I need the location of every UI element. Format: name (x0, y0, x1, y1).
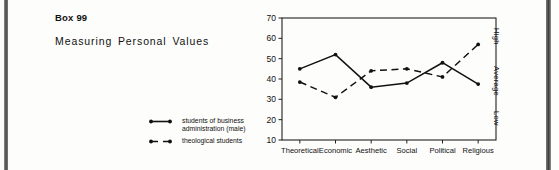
data-point (298, 80, 302, 84)
right-axis-label-low: Low (492, 111, 501, 126)
data-point (476, 82, 480, 86)
data-point (476, 43, 480, 47)
legend-dashed-line-icon (148, 137, 182, 146)
x-tick-label: Religious (463, 146, 494, 155)
page-canvas: Box 99 Measuring Personal Values student… (0, 0, 559, 170)
chart-svg: 10203040506070TheoreticalEconomicAesthet… (256, 14, 506, 164)
legend-solid-line-icon (148, 117, 182, 126)
y-tick-label: 10 (267, 135, 277, 145)
series-line-1 (300, 44, 478, 97)
plot-frame (282, 18, 496, 140)
y-tick-label: 60 (267, 33, 277, 43)
right-axis-label-high: High (492, 28, 501, 45)
x-tick-label: Political (429, 146, 455, 155)
data-point (334, 53, 338, 57)
page-title: Measuring Personal Values (55, 35, 209, 47)
scan-edge-left (4, 0, 8, 170)
data-point (369, 85, 373, 89)
x-tick-label: Aesthetic (356, 146, 387, 155)
data-point (441, 75, 445, 79)
legend-label-theological: theological students (182, 137, 242, 145)
data-point (405, 67, 409, 71)
y-tick-label: 20 (267, 115, 277, 125)
data-point (298, 67, 302, 71)
series-line-0 (300, 55, 478, 88)
y-tick-label: 50 (267, 54, 277, 64)
y-tick-label: 70 (267, 14, 277, 23)
caption-block: Box 99 Measuring Personal Values (55, 12, 209, 47)
legend-item-business: students of business administration (mal… (148, 117, 245, 133)
right-axis-label-average: Average (492, 66, 501, 96)
chart-legend: students of business administration (mal… (148, 117, 245, 150)
line-chart: 10203040506070TheoreticalEconomicAesthet… (256, 14, 506, 164)
data-point (405, 81, 409, 85)
y-tick-label: 40 (267, 74, 277, 84)
data-point (334, 95, 338, 99)
legend-item-theological: theological students (148, 137, 245, 146)
scan-edge-right (546, 0, 551, 170)
x-tick-label: Theoretical (281, 146, 319, 155)
x-tick-label: Social (396, 146, 417, 155)
y-tick-label: 30 (267, 94, 277, 104)
data-point (441, 61, 445, 65)
legend-label-business: students of business administration (mal… (182, 117, 245, 133)
data-point (369, 69, 373, 73)
box-label: Box 99 (55, 12, 209, 23)
x-tick-label: Economic (319, 146, 353, 155)
